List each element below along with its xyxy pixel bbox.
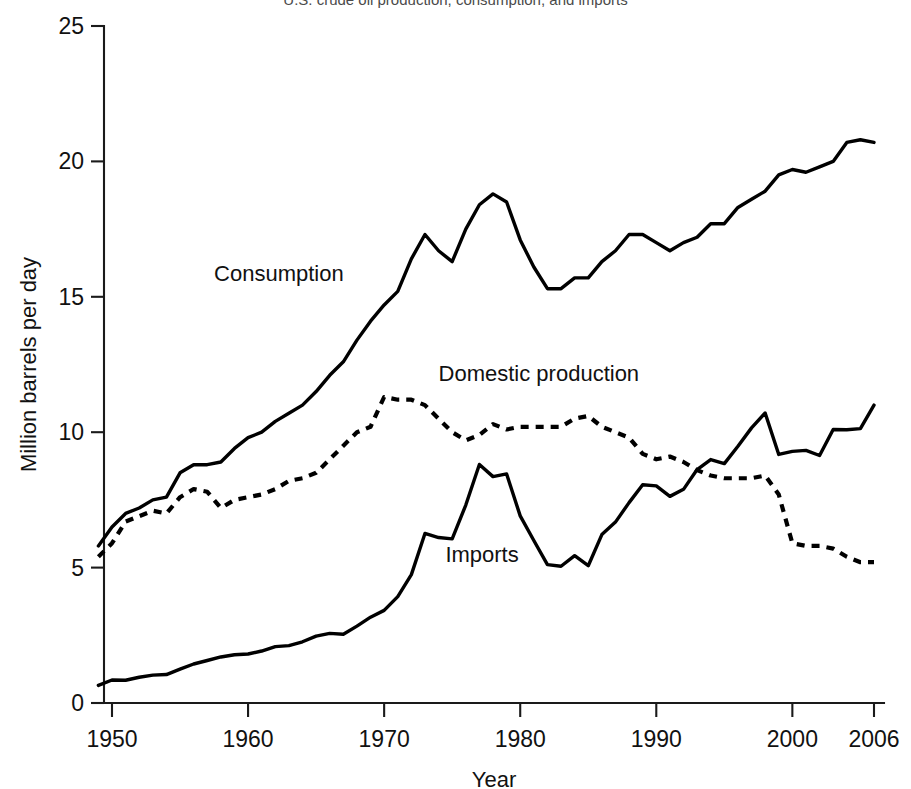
series-label-domestic-production: Domestic production: [439, 361, 640, 386]
x-tick-label-1990: 1990: [631, 726, 682, 752]
chart-figure: U.S. crude oil production, consumption, …: [0, 0, 911, 789]
series-line-consumption: [98, 140, 874, 546]
x-tick-label-1980: 1980: [495, 726, 546, 752]
y-axis-title: Million barrels per day: [16, 257, 41, 472]
x-tick-label-2000: 2000: [767, 726, 818, 752]
x-tick-label-1950: 1950: [86, 726, 137, 752]
y-tick-label-15: 15: [58, 284, 84, 310]
y-tick-label-10: 10: [58, 419, 84, 445]
x-tick-label-1960: 1960: [222, 726, 273, 752]
x-axis-title: Year: [472, 767, 516, 789]
x-tick-label-2006: 2006: [848, 726, 899, 752]
series-label-imports: Imports: [445, 542, 518, 567]
series-label-consumption: Consumption: [214, 261, 344, 286]
y-tick-label-5: 5: [71, 555, 84, 581]
y-tick-label-0: 0: [71, 690, 84, 716]
y-tick-label-20: 20: [58, 148, 84, 174]
x-tick-label-1970: 1970: [359, 726, 410, 752]
y-tick-label-25: 25: [58, 13, 84, 39]
line-chart-plot: 05101520251950196019701980199020002006Mi…: [0, 0, 911, 789]
